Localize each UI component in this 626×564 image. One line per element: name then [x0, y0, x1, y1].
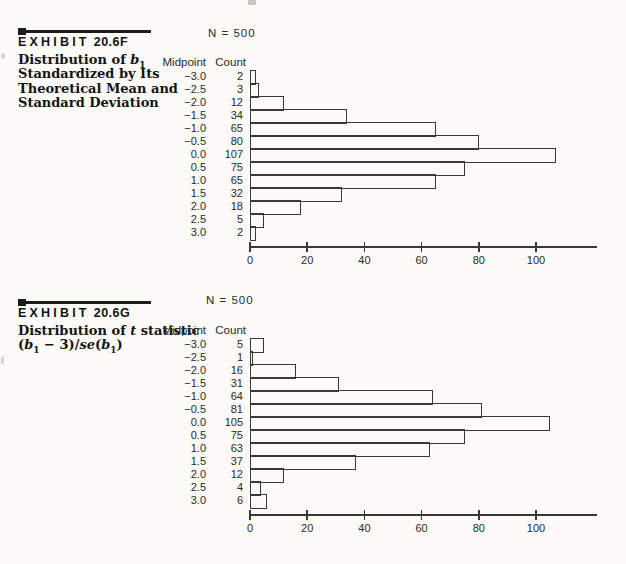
x-axis-tick-label: 20 — [287, 522, 327, 534]
count-value: 80 — [190, 135, 243, 148]
exhibit-word: EXHIBIT — [18, 35, 90, 49]
count-value: 65 — [190, 122, 243, 135]
exhibit-rule — [18, 301, 151, 304]
count-value: 32 — [190, 187, 243, 200]
histogram-standardized-b1: MidpointCount−3.02−2.53−2.012−1.534−1.06… — [0, 70, 626, 280]
x-axis-tick — [535, 510, 537, 520]
count-value: 2 — [190, 70, 243, 83]
x-axis-tick-label: 60 — [402, 254, 442, 266]
x-axis-tick-label: 100 — [516, 254, 556, 266]
count-value: 4 — [190, 481, 243, 494]
x-axis-line — [250, 514, 597, 516]
text-segment: Distribution of — [18, 323, 130, 338]
exhibit-rule — [18, 30, 151, 33]
count-value: 64 — [190, 390, 243, 403]
count-value: 105 — [190, 416, 243, 429]
count-value: 5 — [190, 338, 243, 351]
histogram-bar — [250, 226, 256, 241]
x-axis-tick — [364, 242, 366, 252]
count-value: 75 — [190, 429, 243, 442]
text-segment: Distribution of — [18, 52, 130, 67]
count-value: 6 — [190, 494, 243, 507]
x-axis-tick — [306, 510, 308, 520]
exhibit-heading: EXHIBIT20.6G — [18, 306, 218, 321]
x-axis-tick — [421, 510, 423, 520]
count-value: 1 — [190, 351, 243, 364]
column-header-count: Count — [196, 56, 246, 69]
book-page: EXHIBIT20.6F Distribution of b1 Standard… — [0, 0, 626, 564]
x-axis-tick-label: 80 — [459, 522, 499, 534]
count-value: 63 — [190, 442, 243, 455]
count-value: 16 — [190, 364, 243, 377]
x-axis-tick-label: 40 — [344, 254, 384, 266]
count-value: 12 — [190, 468, 243, 481]
scan-smudge — [1, 53, 5, 59]
count-value: 31 — [190, 377, 243, 390]
x-axis-tick-label: 40 — [344, 522, 384, 534]
x-axis-tick-label: 0 — [230, 254, 270, 266]
x-axis-line — [250, 246, 597, 248]
exhibit-word: EXHIBIT — [18, 306, 90, 320]
x-axis-tick — [249, 510, 251, 520]
x-axis-tick — [421, 242, 423, 252]
x-axis-tick — [535, 242, 537, 252]
x-axis-tick — [249, 242, 251, 252]
x-axis-tick-label: 100 — [516, 522, 556, 534]
count-value: 107 — [190, 148, 243, 161]
exhibit-number: 20.6F — [94, 35, 128, 49]
sample-size-label: N = 500 — [208, 27, 256, 39]
x-axis-tick — [478, 242, 480, 252]
x-axis-tick-label: 60 — [402, 522, 442, 534]
x-axis-tick-label: 80 — [459, 254, 499, 266]
x-axis-tick — [364, 510, 366, 520]
count-value: 81 — [190, 403, 243, 416]
count-value: 37 — [190, 455, 243, 468]
x-axis-tick-label: 0 — [230, 522, 270, 534]
count-value: 5 — [190, 213, 243, 226]
count-value: 12 — [190, 96, 243, 109]
x-axis-tick-label: 20 — [287, 254, 327, 266]
exhibit-heading: EXHIBIT20.6F — [18, 35, 218, 50]
count-value: 3 — [190, 83, 243, 96]
x-axis-tick — [478, 510, 480, 520]
count-value: 18 — [190, 200, 243, 213]
x-axis-tick — [306, 242, 308, 252]
exhibit-number: 20.6G — [94, 306, 131, 320]
rule-bullet-square — [18, 299, 26, 307]
histogram-bar — [250, 494, 267, 509]
column-header-count: Count — [196, 324, 246, 337]
rule-bullet-square — [18, 28, 26, 36]
text-segment: b — [130, 52, 139, 67]
count-value: 75 — [190, 161, 243, 174]
histogram-t-statistic: MidpointCount−3.05−2.51−2.016−1.531−1.06… — [0, 338, 626, 548]
sample-size-label: N = 500 — [206, 294, 254, 306]
count-value: 34 — [190, 109, 243, 122]
scan-artifact — [248, 0, 256, 5]
count-value: 65 — [190, 174, 243, 187]
count-value: 2 — [190, 226, 243, 239]
